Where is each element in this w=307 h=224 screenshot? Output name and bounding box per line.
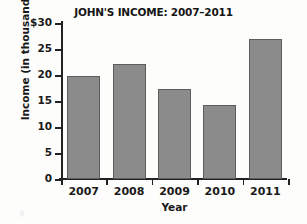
bar bbox=[67, 76, 100, 179]
y-axis-tick-label: 0 bbox=[45, 172, 52, 184]
y-axis-tick: $30 bbox=[55, 23, 61, 25]
bar-chart: JOHN'S INCOME: 2007–2011 Income (in thou… bbox=[0, 0, 307, 224]
y-axis-tick: 20 bbox=[55, 75, 61, 77]
y-axis-tick-label: 25 bbox=[37, 42, 52, 54]
plot-area: $302520151050 bbox=[61, 23, 288, 179]
bar bbox=[249, 39, 282, 179]
x-axis-title: Year bbox=[61, 201, 288, 213]
x-axis-tick-label: 2008 bbox=[104, 185, 154, 198]
y-axis-tick: 10 bbox=[55, 127, 61, 129]
y-axis-tick-label: 20 bbox=[37, 68, 52, 80]
x-axis-tick-label: 2007 bbox=[59, 185, 109, 198]
scan-artifact bbox=[20, 210, 24, 217]
y-axis-tick-label: 10 bbox=[37, 120, 52, 132]
y-axis-tick: 15 bbox=[55, 101, 61, 103]
x-axis-tick-label: 2010 bbox=[195, 185, 245, 198]
bar bbox=[113, 64, 146, 179]
y-axis-tick-label: 15 bbox=[37, 94, 52, 106]
bar bbox=[158, 89, 191, 180]
y-axis-tick: 5 bbox=[55, 153, 61, 155]
y-axis-tick-label: $30 bbox=[30, 16, 52, 28]
y-axis-tick-label: 5 bbox=[45, 146, 52, 158]
bar bbox=[203, 105, 236, 179]
x-axis-tick-label: 2011 bbox=[240, 185, 290, 198]
x-axis-tick-label: 2009 bbox=[150, 185, 200, 198]
y-axis-tick: 25 bbox=[55, 49, 61, 51]
